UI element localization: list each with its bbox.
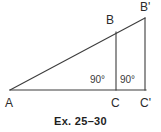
- angle-label-c-prime: 90°: [120, 75, 135, 85]
- geometry-figure: A B B' C C' 90° 90° Ex. 25–30: [0, 0, 161, 132]
- triangle-diagram: [0, 0, 161, 132]
- vertex-label-c-prime: C': [140, 97, 151, 109]
- vertex-label-b: B: [106, 14, 114, 26]
- figure-caption: Ex. 25–30: [0, 115, 161, 127]
- vertex-label-b-prime: B': [140, 1, 150, 13]
- angle-label-c: 90°: [90, 75, 105, 85]
- vertex-label-a: A: [5, 97, 13, 109]
- vertex-label-c: C: [111, 97, 120, 109]
